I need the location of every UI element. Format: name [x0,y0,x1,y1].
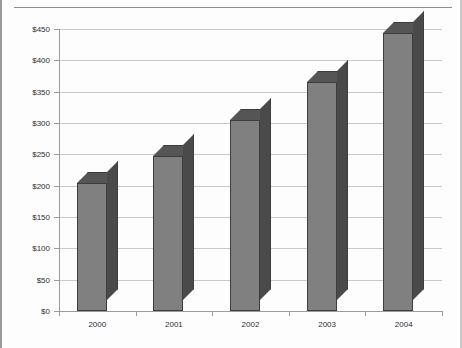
bar[interactable] [383,22,424,311]
y-axis-label: $450 [2,25,50,34]
chart-frame: $0$50$100$150$200$250$300$350$400$450 20… [0,0,462,348]
y-axis-label: $250 [2,150,50,159]
y-tick-mark [54,154,60,155]
y-tick-mark [54,92,60,93]
y-axis-label: $50 [2,275,50,284]
chart-title-clipped [16,0,450,7]
y-tick-mark [54,186,60,187]
y-axis-label: $300 [2,119,50,128]
x-axis-line [59,311,443,312]
x-axis-label: 2001 [139,320,209,329]
bar-front-face [77,183,107,311]
x-axis-label: 2004 [369,320,439,329]
y-tick-mark [54,29,60,30]
x-tick-mark [212,311,213,316]
bar[interactable] [153,145,194,311]
bar[interactable] [307,71,348,311]
y-axis-label: $0 [2,307,50,316]
bar-front-face [307,82,337,311]
y-axis-label: $200 [2,181,50,190]
y-tick-mark [54,280,60,281]
bar-side-face [183,134,194,300]
bar-front-face [383,33,413,311]
x-tick-mark [365,311,366,316]
y-axis-label: $350 [2,87,50,96]
x-tick-mark [59,311,60,316]
x-axis-label: 2003 [292,320,362,329]
y-tick-mark [54,60,60,61]
y-tick-mark [54,123,60,124]
bar-side-face [413,11,424,300]
title-divider [14,7,452,8]
y-tick-mark [54,248,60,249]
y-axis-label: $150 [2,213,50,222]
bar[interactable] [230,109,271,311]
y-axis-line [59,29,60,312]
x-axis-label: 2000 [62,320,132,329]
y-axis-label: $400 [2,56,50,65]
bar-side-face [260,98,271,300]
bar[interactable] [77,172,118,311]
bar-front-face [153,156,183,311]
y-axis-label: $100 [2,244,50,253]
y-tick-mark [54,217,60,218]
x-tick-mark [136,311,137,316]
x-tick-mark [442,311,443,316]
bar-front-face [230,120,260,311]
x-axis-label: 2002 [216,320,286,329]
bar-side-face [337,60,348,300]
x-tick-mark [289,311,290,316]
bar-side-face [107,161,118,300]
